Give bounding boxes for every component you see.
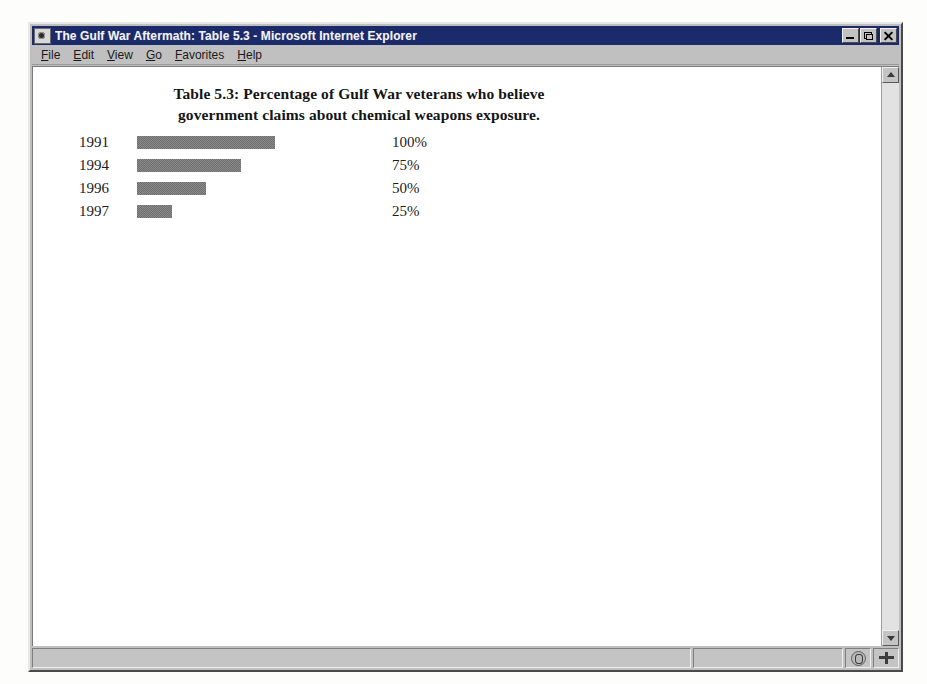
restore-icon-back: [866, 34, 873, 40]
menu-item-help[interactable]: Help: [231, 47, 269, 63]
chart-title-line-1: Table 5.3: Percentage of Gulf War vetera…: [39, 83, 679, 104]
screenshot-page: The Gulf War Aftermath: Table 5.3 - Micr…: [0, 0, 927, 684]
chart-title: Table 5.3: Percentage of Gulf War vetera…: [39, 83, 679, 126]
value-label: 75%: [392, 157, 420, 174]
chart-row: 1997 25%: [33, 200, 881, 223]
bar-cell: [137, 159, 392, 172]
bar-1991: [137, 136, 275, 149]
bar-1996: [137, 182, 206, 195]
status-message: [32, 648, 691, 668]
browser-window: The Gulf War Aftermath: Table 5.3 - Micr…: [28, 22, 903, 672]
security-zone-icon: [851, 651, 866, 666]
scrollbar-track[interactable]: [882, 83, 899, 630]
menu-item-file[interactable]: File: [35, 47, 67, 63]
bar-chart: 1991 100% 1994 75%: [33, 131, 881, 223]
menu-accel-help: H: [237, 48, 246, 62]
menu-item-go[interactable]: Go: [140, 47, 169, 63]
menu-item-edit[interactable]: Edit: [67, 47, 101, 63]
scroll-up-button[interactable]: [882, 67, 899, 83]
chevron-up-icon: [887, 72, 895, 77]
category-label: 1996: [79, 180, 137, 197]
value-label: 100%: [392, 134, 427, 151]
menu-label-edit: dit: [81, 48, 94, 62]
close-button[interactable]: [880, 28, 897, 43]
title-bar[interactable]: The Gulf War Aftermath: Table 5.3 - Micr…: [32, 26, 899, 45]
chevron-down-icon: [887, 636, 895, 641]
chart-row: 1994 75%: [33, 154, 881, 177]
window-controls: [842, 28, 898, 43]
document-icon: [34, 28, 51, 44]
vertical-scrollbar[interactable]: [881, 67, 899, 646]
window-title: The Gulf War Aftermath: Table 5.3 - Micr…: [55, 29, 842, 43]
report-content: Table 5.3: Percentage of Gulf War vetera…: [33, 67, 881, 223]
bar-cell: [137, 182, 392, 195]
bar-1994: [137, 159, 241, 172]
restore-button[interactable]: [860, 28, 877, 43]
bar-1997: [137, 205, 172, 218]
chart-title-line-2: government claims about chemical weapons…: [39, 104, 679, 125]
chart-row: 1991 100%: [33, 131, 881, 154]
category-label: 1991: [79, 134, 137, 151]
bar-cell: [137, 136, 392, 149]
menu-label-help: elp: [246, 48, 262, 62]
document-view: Table 5.3: Percentage of Gulf War vetera…: [33, 67, 881, 646]
menu-bar: File Edit View Go Favorites Help: [32, 46, 899, 65]
menu-item-view[interactable]: View: [101, 47, 140, 63]
status-progress: [693, 648, 843, 668]
scroll-down-button[interactable]: [882, 630, 899, 646]
client-area: Table 5.3: Percentage of Gulf War vetera…: [32, 66, 899, 646]
menu-label-view: iew: [115, 48, 133, 62]
menu-label-favorites: avorites: [182, 48, 224, 62]
category-label: 1997: [79, 203, 137, 220]
menu-accel-go: G: [146, 48, 155, 62]
value-label: 50%: [392, 180, 420, 197]
menu-accel-view: V: [107, 48, 115, 62]
security-zone-indicator[interactable]: [845, 648, 871, 668]
menu-item-favorites[interactable]: Favorites: [169, 47, 231, 63]
network-activity-icon: [879, 652, 894, 664]
network-activity-indicator[interactable]: [873, 648, 899, 668]
menu-label-go: o: [155, 48, 162, 62]
category-label: 1994: [79, 157, 137, 174]
minimize-icon: [846, 37, 854, 39]
chart-row: 1996 50%: [33, 177, 881, 200]
value-label: 25%: [392, 203, 420, 220]
bar-cell: [137, 205, 392, 218]
menu-label-file: ile: [48, 48, 60, 62]
status-bar: [32, 648, 899, 668]
minimize-button[interactable]: [842, 28, 859, 43]
